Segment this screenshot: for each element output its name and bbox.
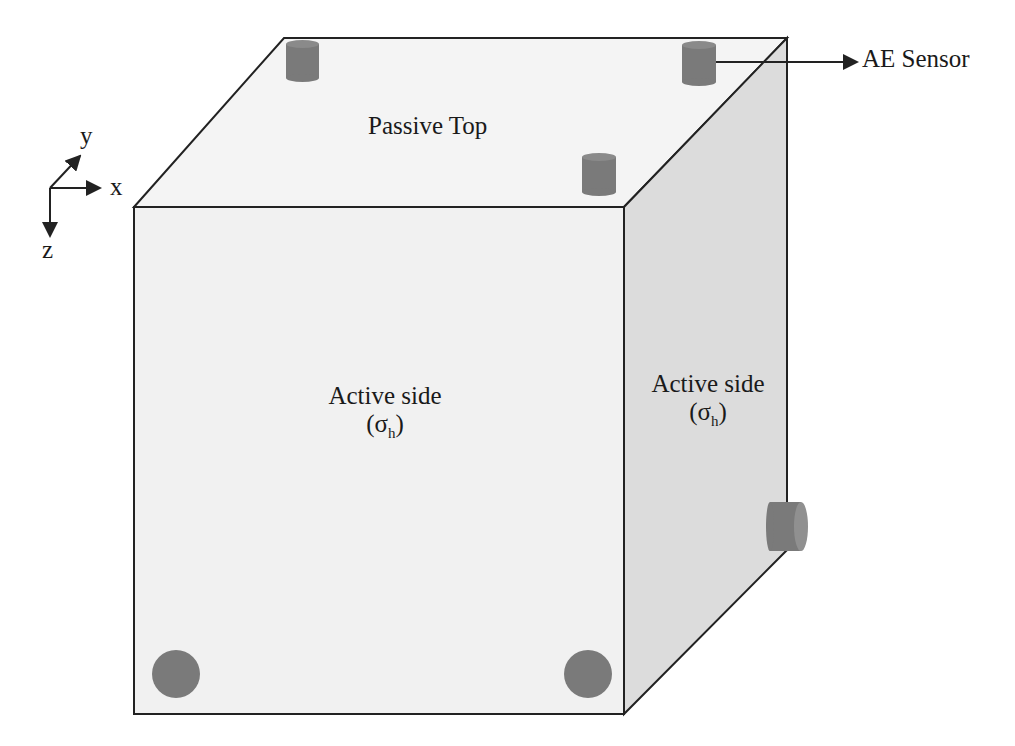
- side-face-title: Active side: [628, 370, 788, 398]
- axis-label-y: y: [80, 122, 93, 150]
- axis-label-x: x: [110, 173, 123, 201]
- sensor-front-left: [152, 650, 200, 698]
- front-face-stress: (σh): [290, 410, 480, 442]
- front-face-title: Active side: [290, 382, 480, 410]
- sensor-label: AE Sensor: [862, 45, 970, 73]
- cube-diagram: [0, 0, 1015, 746]
- front-face-label: Active side (σh): [290, 382, 480, 442]
- front-face: [134, 207, 624, 714]
- sensor-front-right: [564, 650, 612, 698]
- axis-label-z: z: [42, 236, 53, 264]
- top-face-label: Passive Top: [368, 112, 487, 140]
- sensor-top-front: [582, 153, 616, 196]
- axis-triad: [50, 156, 100, 236]
- sensor-top-back-left: [286, 40, 319, 82]
- side-face-label: Active side (σh): [628, 370, 788, 430]
- sensor-side: [766, 502, 808, 551]
- sensor-top-back-right: [682, 41, 716, 86]
- side-face-stress: (σh): [628, 398, 788, 430]
